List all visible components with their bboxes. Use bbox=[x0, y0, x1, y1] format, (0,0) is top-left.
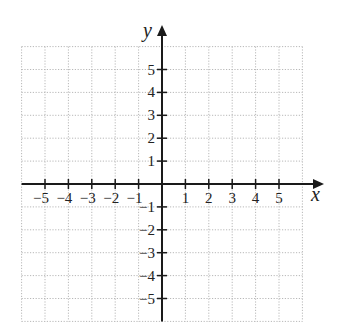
y-tick-label: −1 bbox=[139, 199, 155, 215]
y-tick-label: −2 bbox=[139, 222, 155, 238]
y-tick-label: 2 bbox=[148, 130, 156, 146]
y-tick-label: 3 bbox=[148, 107, 156, 123]
y-tick-label: −5 bbox=[139, 291, 155, 307]
coordinate-plane: −5−4−3−2−112345 54321−1−2−3−4−5 y x bbox=[0, 0, 340, 331]
y-tick-label: 4 bbox=[148, 84, 156, 100]
y-tick-label: −3 bbox=[139, 245, 155, 261]
y-axis-label: y bbox=[141, 19, 152, 42]
x-tick-label: −3 bbox=[80, 190, 96, 206]
x-axis-label: x bbox=[310, 183, 320, 205]
x-tick-label: −5 bbox=[33, 190, 49, 206]
x-tick-label: 2 bbox=[205, 190, 213, 206]
y-tick-label: −4 bbox=[139, 268, 155, 284]
x-tick-labels: −5−4−3−2−112345 bbox=[33, 190, 283, 206]
x-tick-label: 4 bbox=[252, 190, 260, 206]
x-tick-label: 3 bbox=[228, 190, 236, 206]
x-tick-label: −2 bbox=[103, 190, 119, 206]
y-tick-label: 1 bbox=[148, 153, 156, 169]
y-tick-label: 5 bbox=[148, 62, 156, 78]
x-tick-label: −4 bbox=[56, 190, 72, 206]
x-tick-label: 1 bbox=[182, 190, 190, 206]
x-tick-label: 5 bbox=[275, 190, 283, 206]
y-axis-arrow-icon bbox=[157, 25, 167, 36]
